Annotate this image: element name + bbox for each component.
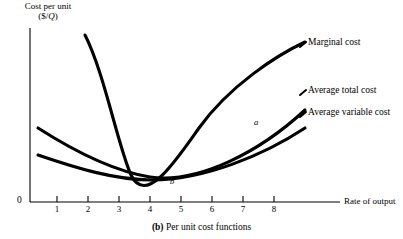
figure-per-unit-cost-functions: Cost per unit ($/Q) 0 1 2 3 4 5 6 7 8 Ra… [0,0,403,239]
y-axis-title: Cost per unit ($/Q) [6,2,90,21]
x-tick-label-4: 4 [142,205,158,215]
figure-caption-text: Per unit cost functions [166,222,251,232]
curve-average-variable-cost [38,128,305,180]
x-tick-label-2: 2 [80,205,96,215]
x-axis-ticks [57,196,274,202]
curve-label-marginal-cost: Marginal cost [308,37,360,47]
x-axis-title: Rate of output [344,197,396,207]
curve-label-average-variable-cost: Average variable cost [308,107,390,117]
x-tick-label-3: 3 [111,205,127,215]
annotation-point-a: a [254,118,258,127]
label-leader-marks [300,42,306,117]
figure-caption: (b) Per unit cost functions [0,222,403,232]
x-tick-label-5: 5 [173,205,189,215]
cost-curves-plot [0,0,403,239]
y-axis-currency: ($/ [38,11,48,21]
origin-label: 0 [17,195,22,205]
y-axis-title-line2: ($/Q) [6,12,90,22]
x-tick-label-6: 6 [204,205,220,215]
curve-marginal-cost [85,35,305,186]
x-tick-label-1: 1 [49,205,65,215]
figure-caption-prefix: (b) [152,222,164,232]
x-tick-label-8: 8 [266,205,282,215]
x-tick-label-7: 7 [235,205,251,215]
curve-label-average-total-cost: Average total cost [308,85,376,95]
y-axis-paren-close: ) [55,11,58,21]
annotation-point-b: b [170,177,174,186]
